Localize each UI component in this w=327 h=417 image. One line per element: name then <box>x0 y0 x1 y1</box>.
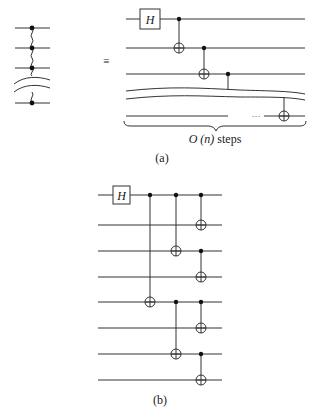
caption-a: (a) <box>155 151 168 165</box>
caption-b: (b) <box>153 393 167 407</box>
equivalence-symbol: ≡ <box>103 55 109 67</box>
brace-label: O (n) steps <box>189 132 242 146</box>
cnot-gates-b <box>145 195 206 385</box>
brace <box>124 121 306 131</box>
hadamard-gate-b: H <box>113 186 130 204</box>
hadamard-gate-a: H <box>140 9 160 29</box>
svg-text:H: H <box>116 189 127 203</box>
circuit-b-wires <box>98 195 222 380</box>
qubit-chain-graph <box>14 28 50 103</box>
svg-text:H: H <box>145 13 156 27</box>
cnot-gates-a <box>174 19 289 121</box>
circuit-figure: ≡ H ··· O (n) steps (a) <box>0 0 327 417</box>
ellipsis: ··· <box>252 111 261 121</box>
circuit-a-wires <box>126 19 305 116</box>
